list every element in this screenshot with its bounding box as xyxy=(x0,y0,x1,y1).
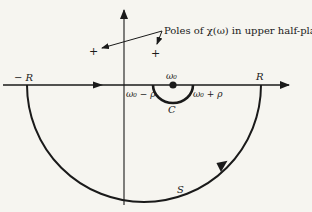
C-label: C xyxy=(168,104,176,115)
omega0-minus-rho-label: ω₀ − ρ xyxy=(126,89,156,99)
arc-S-direction-arrow xyxy=(215,159,227,173)
pos-R-label: R xyxy=(255,71,264,82)
omega0-label: ω₀ xyxy=(166,71,177,81)
omega0-plus-rho-label: ω₀ + ρ xyxy=(193,89,223,99)
omega0-point xyxy=(169,81,176,88)
S-label: S xyxy=(177,184,184,195)
annotation-label: Poles of χ(ω) in upper half-plane xyxy=(164,25,312,36)
contour-diagram: + + Poles of χ(ω) in upper half-plane − … xyxy=(0,0,312,212)
annotation-pointers xyxy=(102,31,162,48)
large-semicircle-S xyxy=(27,85,261,202)
pole-markers: + + xyxy=(89,45,160,60)
real-axis-direction-arrow xyxy=(93,82,103,89)
real-axis xyxy=(3,82,289,89)
pole-marker-right: + xyxy=(151,47,160,60)
neg-R-label: − R xyxy=(14,72,34,83)
pole-marker-left: + xyxy=(89,45,98,58)
